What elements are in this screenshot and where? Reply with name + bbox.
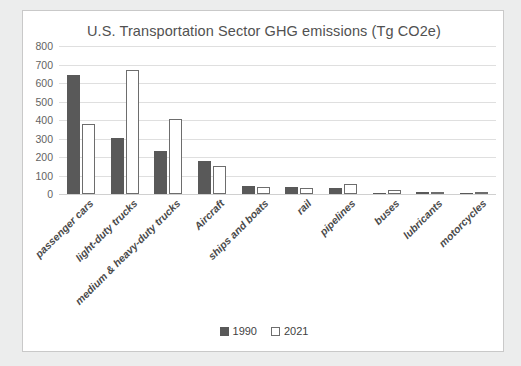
- bar-2021: [475, 192, 488, 194]
- legend-swatch-icon: [271, 327, 280, 336]
- y-axis-tick-label: 400: [35, 114, 53, 126]
- bar-group: [365, 46, 409, 194]
- y-axis-tick-label: 100: [35, 170, 53, 182]
- bar-1990: [329, 188, 342, 194]
- bar-1990: [154, 151, 167, 194]
- bar-2021: [257, 187, 270, 194]
- y-axis-tick-label: 300: [35, 133, 53, 145]
- bar-2021: [82, 124, 95, 194]
- y-axis-tick-label: 800: [35, 40, 53, 52]
- legend-label: 1990: [233, 325, 257, 337]
- category-label: lubricants: [401, 197, 445, 241]
- bar-groups: [59, 46, 496, 194]
- bar-1990: [416, 192, 429, 194]
- y-axis-tick-label: 200: [35, 151, 53, 163]
- legend-item[interactable]: 1990: [220, 325, 257, 337]
- bar-group: [278, 46, 322, 194]
- bar-2021: [431, 192, 444, 194]
- bar-group: [146, 46, 190, 194]
- bar-2021: [213, 166, 226, 194]
- screenshot-page: U.S. Transportation Sector GHG emissions…: [0, 0, 521, 366]
- y-axis-tick-label: 600: [35, 77, 53, 89]
- bar-1990: [67, 75, 80, 194]
- y-axis-tick-label: 700: [35, 59, 53, 71]
- bar-group: [409, 46, 453, 194]
- legend-item[interactable]: 2021: [271, 325, 308, 337]
- bar-2021: [300, 188, 313, 194]
- chart-title: U.S. Transportation Sector GHG emissions…: [23, 23, 505, 39]
- bar-2021: [344, 184, 357, 194]
- bar-1990: [111, 138, 124, 194]
- bar-1990: [198, 161, 211, 194]
- legend-label: 2021: [284, 325, 308, 337]
- chart-card: U.S. Transportation Sector GHG emissions…: [22, 10, 504, 352]
- bar-group: [103, 46, 147, 194]
- bar-1990: [285, 187, 298, 194]
- chart-legend: 19902021: [23, 325, 505, 337]
- legend-swatch-icon: [220, 327, 229, 336]
- y-axis-tick-label: 500: [35, 96, 53, 108]
- bar-1990: [242, 186, 255, 194]
- bar-group: [234, 46, 278, 194]
- category-label: buses: [371, 197, 401, 227]
- bar-group: [452, 46, 496, 194]
- bar-group: [321, 46, 365, 194]
- bar-group: [59, 46, 103, 194]
- y-axis-tick-label: 0: [47, 188, 53, 200]
- category-label: rail: [294, 197, 314, 217]
- gridline: 0: [59, 194, 496, 195]
- bar-2021: [126, 70, 139, 194]
- bar-group: [190, 46, 234, 194]
- plot-area: 8007006005004003002001000: [59, 46, 496, 194]
- category-label: pipelines: [317, 197, 358, 238]
- bar-1990: [373, 193, 386, 194]
- bar-2021: [169, 119, 182, 194]
- bar-1990: [460, 193, 473, 194]
- category-label: Aircraft: [192, 197, 227, 232]
- bar-2021: [388, 190, 401, 194]
